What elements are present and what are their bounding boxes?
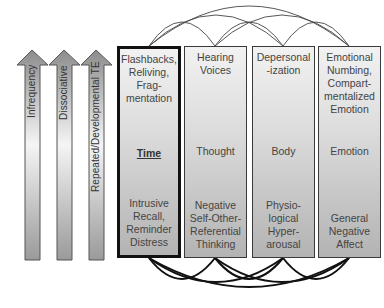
- domain-box-emotion: Emotional Numbing, Compart- mentalized E…: [318, 46, 381, 258]
- domain-label: Time: [120, 147, 178, 160]
- symptom-text: Depersonal -ization: [253, 51, 314, 77]
- domain-label: Body: [253, 145, 314, 158]
- bottom-arcs: [149, 258, 349, 287]
- symptom-text: Hearing Voices: [185, 51, 246, 77]
- arrow-label-infrequency: Infrequency: [26, 65, 37, 118]
- arrow-label-repeated-te: Repeated/Developmental TE: [90, 61, 101, 192]
- domain-box-thought: Hearing Voices Thought Negative Self-Oth…: [184, 46, 247, 258]
- symptom-text: Flashbacks, Reliving, Frag- mentation: [120, 53, 178, 105]
- domain-box-time: Flashbacks, Reliving, Frag- mentation Ti…: [117, 46, 181, 258]
- mechanism-text: Physio- logical Hyper- arousal: [253, 199, 314, 251]
- domain-label: Emotion: [319, 145, 380, 158]
- symptom-text: Emotional Numbing, Compart- mentalized E…: [319, 51, 380, 116]
- mechanism-text: Intrusive Recall, Reminder Distress: [120, 197, 178, 249]
- domain-box-body: Depersonal -ization Body Physio- logical…: [252, 46, 315, 258]
- domain-label: Thought: [185, 145, 246, 158]
- arrow-label-dissociative: Dissociative: [58, 65, 69, 120]
- top-arcs: [149, 6, 349, 46]
- mechanism-text: Negative Self-Other- Referential Thinkin…: [185, 199, 246, 251]
- mechanism-text: General Negative Affect: [319, 212, 380, 251]
